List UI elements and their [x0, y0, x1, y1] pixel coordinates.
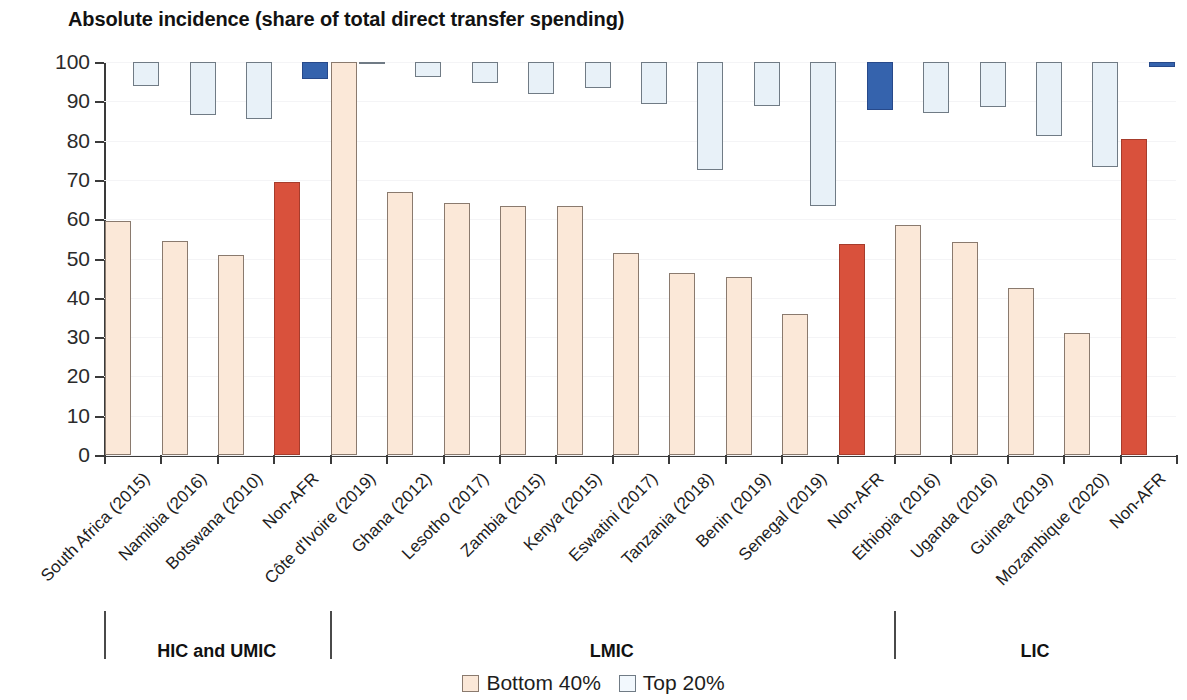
bar-bottom40 [669, 273, 695, 455]
bar-top20 [980, 62, 1006, 107]
bar-top20 [1092, 62, 1118, 167]
x-axis-tick [725, 455, 727, 464]
x-axis-tick [273, 455, 275, 464]
y-axis-tick [95, 259, 104, 261]
x-axis-tick [330, 455, 332, 464]
bar-bottom40 [274, 182, 300, 455]
bar-bottom40 [387, 192, 413, 455]
x-axis-category-label: Botswana (2010) [162, 469, 267, 574]
gridline [104, 180, 1176, 181]
bar-top20 [641, 62, 667, 104]
y-axis-tick-label: 80 [26, 129, 90, 153]
x-axis-tick [1063, 455, 1065, 464]
x-axis-tick [160, 455, 162, 464]
y-axis-tick-label: 100 [26, 50, 90, 74]
bar-bottom40 [1008, 288, 1034, 455]
y-axis-tick-label: 40 [26, 286, 90, 310]
bar-top20 [810, 62, 836, 206]
x-axis-tick [894, 455, 896, 464]
y-axis-tick [95, 337, 104, 339]
chart-title: Absolute incidence (share of total direc… [68, 8, 624, 31]
y-axis-tick [95, 101, 104, 103]
y-axis-tick [95, 62, 104, 64]
x-axis-tick [1120, 455, 1122, 464]
bar-top20 [133, 62, 159, 86]
group-label: HIC and UMIC [157, 641, 276, 662]
x-axis-tick [837, 455, 839, 464]
x-axis-tick [386, 455, 388, 464]
x-axis-tick [443, 455, 445, 464]
x-axis-tick [612, 455, 614, 464]
bar-bottom40 [500, 206, 526, 455]
bar-bottom40 [613, 253, 639, 455]
bar-top20 [754, 62, 780, 106]
y-axis-tick-label: 60 [26, 207, 90, 231]
bar-bottom40 [1064, 333, 1090, 455]
y-axis-tick [95, 416, 104, 418]
y-axis-tick [95, 219, 104, 221]
y-axis-tick-label: 30 [26, 325, 90, 349]
gridline [104, 455, 1176, 456]
group-label: LMIC [590, 641, 634, 662]
x-axis-tick [1176, 455, 1178, 464]
top20-swatch [619, 675, 636, 692]
bar-bottom40 [218, 255, 244, 455]
x-axis-tick [217, 455, 219, 464]
legend-item[interactable]: Bottom 40% [462, 671, 600, 695]
y-axis-tick-label: 10 [26, 404, 90, 428]
bar-bottom40 [782, 314, 808, 455]
y-axis-tick-label: 50 [26, 247, 90, 271]
group-separator [104, 611, 106, 659]
bar-top20 [528, 62, 554, 94]
x-axis-tick [499, 455, 501, 464]
bar-top20 [585, 62, 611, 88]
bar-bottom40 [839, 244, 865, 455]
chart-legend: Bottom 40%Top 20% [0, 671, 1187, 695]
y-axis-tick-label: 90 [26, 89, 90, 113]
y-axis-tick [95, 455, 104, 457]
y-axis-tick-label: 0 [26, 443, 90, 467]
y-axis-tick [95, 180, 104, 182]
group-label: LIC [1020, 641, 1049, 662]
bar-bottom40 [895, 225, 921, 455]
x-axis-tick [104, 455, 106, 464]
bar-top20 [246, 62, 272, 119]
y-axis-tick [95, 298, 104, 300]
legend-label: Top 20% [643, 671, 725, 695]
x-axis-tick [950, 455, 952, 464]
group-separator [894, 611, 896, 659]
bottom40-swatch [462, 675, 479, 692]
bar-bottom40 [1121, 139, 1147, 455]
legend-item[interactable]: Top 20% [619, 671, 725, 695]
bar-bottom40 [726, 277, 752, 455]
x-axis-tick [668, 455, 670, 464]
bar-bottom40 [105, 221, 131, 455]
gridline [104, 219, 1176, 220]
bar-top20 [359, 62, 385, 64]
bar-top20 [415, 62, 441, 77]
bar-top20 [472, 62, 498, 83]
bar-bottom40 [331, 62, 357, 455]
bar-top20 [1036, 62, 1062, 136]
bar-top20 [923, 62, 949, 113]
y-axis-tick [95, 141, 104, 143]
bar-bottom40 [952, 242, 978, 455]
x-axis-tick [555, 455, 557, 464]
bar-top20 [1149, 62, 1175, 67]
gridline [104, 141, 1176, 142]
x-axis-tick [781, 455, 783, 464]
x-axis-category-label: Non-AFR [1106, 469, 1170, 533]
y-axis-tick [95, 376, 104, 378]
plot-area [104, 62, 1176, 455]
gridline [104, 259, 1176, 260]
bar-bottom40 [444, 203, 470, 455]
bar-top20 [867, 62, 893, 110]
y-axis-tick-label: 70 [26, 168, 90, 192]
y-axis-tick-label: 20 [26, 364, 90, 388]
bar-top20 [190, 62, 216, 115]
chart-root: Absolute incidence (share of total direc… [0, 0, 1187, 700]
x-axis-tick [1007, 455, 1009, 464]
group-separator [330, 611, 332, 659]
bar-bottom40 [162, 241, 188, 455]
bar-bottom40 [557, 206, 583, 455]
